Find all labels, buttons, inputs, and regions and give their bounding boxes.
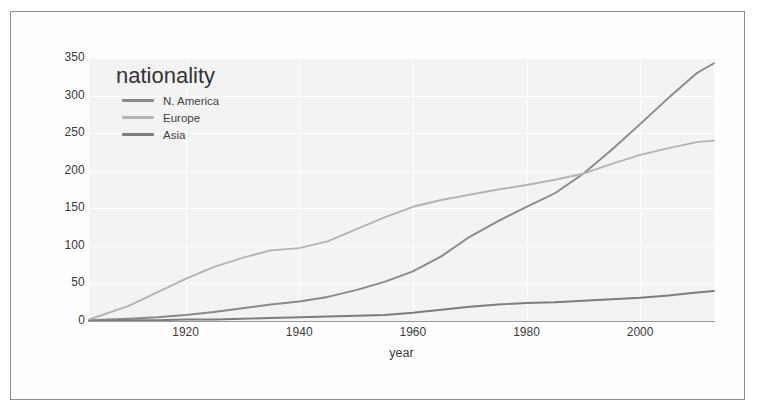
legend-item-label: Asia — [163, 129, 185, 141]
legend-item: Asia — [116, 126, 219, 143]
legend-entries: N. AmericaEuropeAsia — [116, 92, 219, 143]
legend-title: nationality — [116, 64, 219, 87]
y-tick-label: 250 — [64, 125, 85, 139]
y-tick-label: 150 — [64, 200, 85, 214]
legend: nationality N. AmericaEuropeAsia — [116, 64, 219, 143]
legend-item: Europe — [116, 109, 219, 126]
x-tick-label: 1980 — [513, 325, 540, 339]
x-tick-label: 1940 — [286, 325, 313, 339]
x-tick-label: 1960 — [400, 325, 427, 339]
legend-color-swatch — [122, 99, 154, 102]
legend-item-label: Europe — [163, 112, 200, 124]
y-tick-label: 0 — [78, 313, 85, 327]
y-tick-label: 50 — [71, 275, 85, 289]
line-series — [89, 141, 714, 320]
x-tick-label: 1920 — [172, 325, 199, 339]
x-axis-line — [89, 321, 715, 322]
y-tick-label: 200 — [64, 163, 85, 177]
chart-figure: 050100150200250300350 192019401960198020… — [11, 12, 744, 399]
y-tick-label: 350 — [64, 50, 85, 64]
legend-color-swatch — [122, 116, 154, 119]
line-series — [89, 291, 714, 321]
x-axis-title: year — [89, 346, 714, 360]
x-tick-label: 2000 — [627, 325, 654, 339]
x-axis-ticks: 19201940196019802000 — [89, 325, 714, 345]
y-tick-label: 300 — [64, 88, 85, 102]
screenshot-frame: 050100150200250300350 192019401960198020… — [10, 11, 745, 400]
legend-item-label: N. America — [163, 95, 219, 107]
y-tick-label: 100 — [64, 238, 85, 252]
legend-item: N. America — [116, 92, 219, 109]
y-axis-ticks: 050100150200250300350 — [41, 58, 85, 321]
legend-color-swatch — [122, 133, 154, 136]
